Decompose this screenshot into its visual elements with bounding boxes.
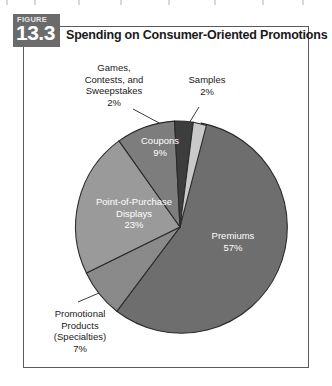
pie-label-promotional-products: Promotional Products (Specialties) 7% [28, 308, 132, 354]
pie-label-coupons: Coupons 9% [129, 135, 191, 158]
figure-number: 13.3 [16, 22, 55, 43]
pie-label-samples: Samples 2% [176, 74, 238, 97]
pie-label-premiums: Premiums 57% [197, 230, 269, 253]
pie-label-point-of-purchase: Point-of-Purchase Displays 23% [85, 196, 183, 231]
figure-title: Spending on Consumer-Oriented Promotions [66, 28, 327, 42]
figure-number-badge: FIGURE 13.3 [13, 14, 60, 47]
pie-label-games: Games, Contests, and Sweepstakes 2% [62, 62, 166, 108]
pie-chart: Games, Contests, and Sweepstakes 2% Samp… [0, 0, 332, 386]
